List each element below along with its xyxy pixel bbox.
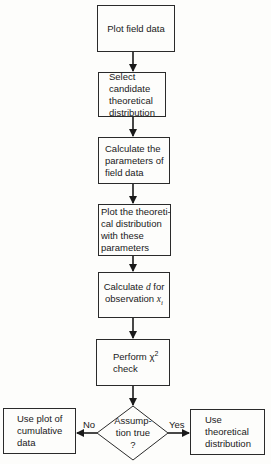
decision-line: tion true (103, 427, 163, 439)
step-text: parameters of (105, 155, 169, 167)
outcome-text: theoretical (205, 426, 264, 438)
step-plot-field-data: Plot field data (97, 5, 175, 52)
step-text: candidate (109, 83, 165, 95)
decision-line: ? (103, 439, 163, 451)
decision-text: Assump- tion true ? (103, 415, 163, 451)
step-text: Perform χ2 (113, 351, 169, 363)
step-calculate-parameters: Calculate the parameters of field data (98, 137, 170, 184)
step-plot-theoretical: Plot the theoreti- cal distribution with… (98, 204, 171, 256)
text-fragment: for (151, 281, 165, 292)
step-text: field data (105, 167, 169, 179)
step-chi-square-check: Perform χ2 check (96, 339, 170, 386)
outcome-text: cumulative (17, 425, 75, 437)
step-text: Plot the theoreti- (101, 206, 170, 218)
step-text: observation xi (105, 293, 163, 309)
decision-line: Assump- (103, 415, 163, 427)
text-fragment: observation (105, 293, 157, 304)
step-text: theoretical (109, 95, 165, 107)
text-fragment: Perform (113, 351, 149, 362)
step-select-candidate: Select candidate theoretical distributio… (98, 72, 166, 117)
step-text: check (113, 363, 169, 375)
step-text: cal distribution (101, 218, 170, 230)
step-text: Plot field data (107, 23, 165, 35)
step-text: with these (101, 230, 170, 242)
step-text: parameters (101, 242, 170, 254)
outcome-text: Use (205, 414, 264, 426)
text-fragment: Calculate (104, 281, 146, 292)
step-text: Select (109, 71, 165, 83)
flowchart: Plot field data Select candidate theoret… (0, 0, 271, 464)
outcome-text: Use plot of (17, 413, 75, 425)
step-text: distribution (109, 107, 165, 119)
step-text: Calculate the (105, 143, 169, 155)
outcome-text: distribution (205, 438, 264, 450)
step-text: Calculate d for (104, 281, 165, 293)
outcome-text: data (17, 437, 75, 449)
yes-label: Yes (169, 419, 185, 430)
outcome-use-theoretical: Use theoretical distribution (190, 409, 265, 455)
superscript-2: 2 (154, 349, 158, 356)
outcome-use-cumulative: Use plot of cumulative data (3, 408, 76, 454)
step-calculate-d: Calculate d for observation xi (98, 272, 170, 318)
no-label: No (83, 419, 95, 430)
subscript-i: i (161, 299, 163, 307)
